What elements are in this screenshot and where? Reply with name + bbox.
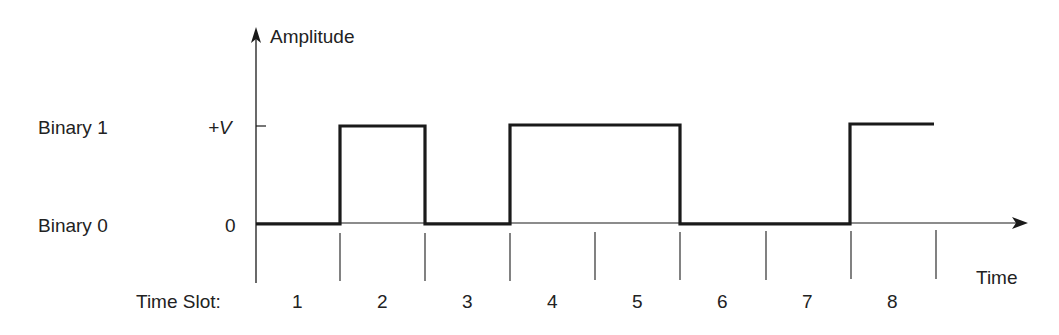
time-slot-label: 7 <box>802 291 813 312</box>
time-slot-label: 1 <box>292 291 303 312</box>
y-axis-label: Amplitude <box>270 26 355 47</box>
time-slot-label: 5 <box>632 291 643 312</box>
binary-0-label: Binary 0 <box>38 215 108 236</box>
slot-boundary-ticks <box>340 230 936 281</box>
time-slot-label: 8 <box>887 291 898 312</box>
binary-1-label: Binary 1 <box>38 117 108 138</box>
y-tick-high-label: +V <box>208 117 234 138</box>
waveform-diagram: Amplitude Time Binary 1 Binary 0 +V 0 Ti… <box>0 0 1059 335</box>
x-axis-label: Time <box>976 267 1018 288</box>
time-slot-label: 6 <box>717 291 728 312</box>
time-slot-label: 2 <box>377 291 388 312</box>
time-slot-label: 3 <box>462 291 473 312</box>
time-slot-labels: 1 2 3 4 5 6 7 8 <box>292 291 898 312</box>
y-tick-low-label: 0 <box>225 215 236 236</box>
time-slot-label: 4 <box>547 291 558 312</box>
signal-waveform <box>256 124 934 224</box>
time-slot-prefix: Time Slot: <box>136 291 221 312</box>
